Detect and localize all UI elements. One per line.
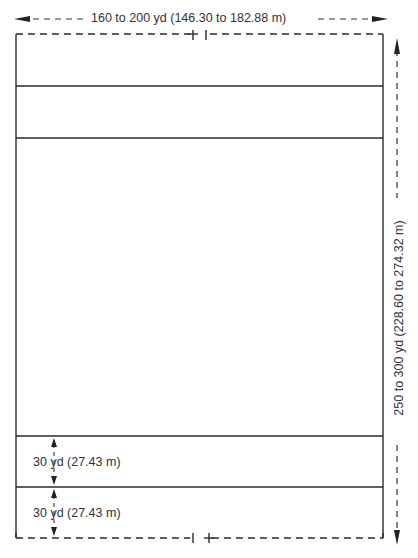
- width-label: 160 to 200 yd (146.30 to 182.88 m): [88, 11, 289, 25]
- zone-lines: [16, 86, 383, 487]
- length-label: 250 to 300 yd (228.60 to 274.32 m): [392, 217, 406, 418]
- zone-label-2: 30 yd (27.43 m): [33, 506, 121, 520]
- zone-label-1: 30 yd (27.43 m): [33, 455, 121, 469]
- field-diagram: [0, 0, 418, 558]
